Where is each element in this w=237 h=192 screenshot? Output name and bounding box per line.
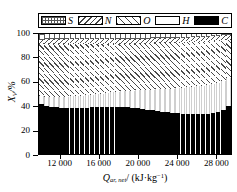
- bar-segment-H: [75, 96, 80, 108]
- bar-segment-C: [191, 114, 196, 154]
- bar-segment-C: [54, 107, 59, 154]
- bar-segment-O: [145, 44, 150, 90]
- bar-segment-C: [90, 107, 95, 154]
- y-axis-tick-mark: [33, 155, 38, 156]
- bar-segment-O: [64, 44, 69, 97]
- bar-segment-C: [211, 113, 216, 154]
- bar-segment-H: [135, 90, 140, 108]
- bar-segment-C: [80, 108, 85, 154]
- x-axis-tick-label: 12 000: [47, 159, 72, 168]
- bar-segment-C: [130, 108, 135, 154]
- bar-segment-O: [135, 44, 140, 91]
- stacked-bar: [105, 34, 110, 154]
- bar-segment-H: [196, 86, 201, 114]
- stacked-bar: [221, 34, 226, 154]
- bar-segment-C: [145, 110, 150, 154]
- bar-segment-C: [95, 107, 100, 154]
- bar-segment-C: [150, 110, 155, 154]
- stacked-bar: [115, 34, 120, 154]
- bar-segment-H: [150, 90, 155, 111]
- bar-segment-C: [226, 106, 231, 154]
- bar-segment-O: [100, 44, 105, 94]
- bar-segment-H: [175, 88, 180, 113]
- legend-item-C: C: [194, 14, 229, 27]
- bar-segment-O: [80, 44, 85, 96]
- bar-segment-O: [120, 44, 125, 92]
- legend-swatch-H-icon: [155, 16, 180, 25]
- stacked-bar: [64, 34, 69, 154]
- bar-segment-O: [201, 42, 206, 86]
- stacked-bar: [135, 34, 140, 154]
- bar-segment-H: [181, 88, 186, 114]
- legend-item-S: S: [41, 14, 74, 27]
- bar-segment-O: [221, 40, 226, 81]
- bar-segment-C: [115, 107, 120, 154]
- bar-segment-C: [165, 112, 170, 154]
- y-axis-title-symbol: X: [6, 96, 17, 102]
- bar-segment-O: [211, 41, 216, 84]
- bar-segment-C: [105, 107, 110, 154]
- bar-segment-H: [70, 96, 75, 107]
- x-axis-tick-label: 24 000: [165, 159, 190, 168]
- bar-segment-O: [125, 44, 130, 91]
- y-axis-tick-label: 80: [4, 53, 30, 62]
- bar-segment-O: [49, 44, 54, 97]
- legend-label-N: N: [105, 16, 112, 26]
- stacked-bar: [120, 34, 125, 154]
- bar-segment-H: [211, 84, 216, 113]
- legend-swatch-C-icon: [194, 16, 219, 25]
- y-axis-title: XV/%: [6, 62, 17, 122]
- x-axis-title-paren: ): [164, 172, 167, 183]
- stacked-bar: [54, 34, 59, 154]
- stacked-bar: [95, 34, 100, 154]
- x-axis-title-symbol: Q: [103, 172, 110, 183]
- chart-figure: SNOHC 100806040200 XV/% 12 00016 00020 0…: [0, 0, 237, 192]
- bar-segment-O: [226, 40, 231, 79]
- stacked-bar: [150, 34, 155, 154]
- stacked-bar: [125, 34, 130, 154]
- bar-segment-C: [216, 112, 221, 154]
- stacked-bar: [100, 34, 105, 154]
- bar-segment-O: [75, 44, 80, 97]
- stacked-bar: [130, 34, 135, 154]
- bar-segment-C: [39, 104, 44, 154]
- legend-item-H: H: [155, 14, 190, 27]
- stacked-bar: [206, 34, 211, 154]
- y-axis-tick-mark: [33, 33, 38, 34]
- bar-segment-H: [155, 89, 160, 111]
- bar-segment-O: [160, 43, 165, 89]
- stacked-bar: [155, 34, 160, 154]
- legend-label-S: S: [68, 16, 73, 26]
- bar-segment-O: [165, 43, 170, 89]
- bar-segment-H: [85, 95, 90, 107]
- stacked-bar: [216, 34, 221, 154]
- bar-segment-H: [170, 89, 175, 113]
- bar-segment-O: [90, 44, 95, 95]
- bar-segment-O: [206, 41, 211, 85]
- bar-segment-C: [75, 108, 80, 154]
- stacked-bar: [181, 34, 186, 154]
- bar-segment-H: [39, 96, 44, 104]
- bar-segment-O: [196, 42, 201, 87]
- bar-segment-O: [39, 44, 44, 96]
- bar-segment-O: [175, 43, 180, 88]
- bar-segment-H: [191, 87, 196, 114]
- stacked-bar: [191, 34, 196, 154]
- stacked-bar: [211, 34, 216, 154]
- y-axis-tick-label: 0: [4, 151, 30, 160]
- stacked-bars-container: [39, 34, 231, 154]
- bar-segment-H: [160, 89, 165, 112]
- bar-segment-O: [59, 44, 64, 97]
- legend-swatch-O-icon: [116, 16, 141, 25]
- y-axis-tick-mark: [33, 131, 38, 132]
- legend-swatch-S-icon: [41, 16, 66, 25]
- bar-segment-O: [54, 44, 59, 98]
- bar-segment-O: [170, 43, 175, 89]
- legend-label-O: O: [143, 16, 150, 26]
- legend-label-C: C: [221, 16, 228, 26]
- bar-segment-H: [125, 91, 130, 108]
- bar-segment-C: [110, 107, 115, 154]
- bar-segment-O: [191, 42, 196, 87]
- bar-segment-C: [59, 108, 64, 154]
- bar-segment-C: [140, 109, 145, 154]
